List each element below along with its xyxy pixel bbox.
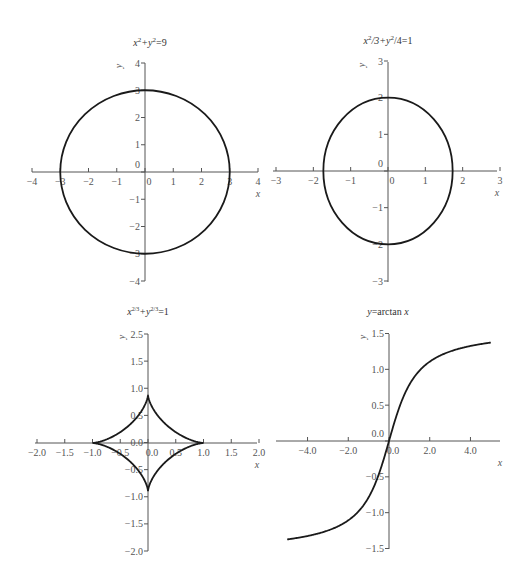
chart-title-astroid: x2/3+y2/3=1 [127,306,169,317]
x-tick-label: 1 [171,176,176,187]
y-tick-label: 1.0 [131,383,144,394]
x-tick-label: −4.0 [298,445,316,456]
y-tick-label: −0.5 [366,471,384,482]
x-tick-label: 0 [147,176,152,187]
title-var-x: x [404,306,408,317]
x-tick-label: 0 [390,175,395,186]
x-tick-label: 0.0 [146,447,159,458]
x-tick-label: 2.0 [423,445,436,456]
y-axis-label: y [357,334,368,340]
y-tick-label: −1.5 [366,543,384,554]
title-rhs: =1 [158,306,169,317]
x-tick-label: −1.5 [56,447,74,458]
y-tick-label: −1.0 [366,507,384,518]
x-axis-label: x [255,188,261,199]
x-tick-label: −2.0 [28,447,46,458]
title-func: =arctan [372,306,405,317]
y-tick-label: 0.5 [372,400,385,411]
y-tick-label: 0 [135,159,140,170]
y-tick-label: 4 [135,58,140,69]
x-tick-label: 2 [199,176,204,187]
y-tick-label: −1 [129,194,140,205]
y-axis-label: y [356,62,367,68]
title-rhs: /4=1 [394,35,412,46]
y-axis-label: y [116,334,127,340]
chart-astroid: −2.0−1.5−1.0−0.50.00.51.01.52.02.51.51.0… [28,329,265,557]
chart-title-circle: x2+y2=9 [133,36,166,48]
x-axis-label: x [497,457,503,468]
y-tick-label: 1 [135,139,140,150]
title-exp: 2/3 [132,306,140,312]
y-tick-label: 3 [378,56,383,67]
x-tick-label: −2 [83,176,94,187]
x-tick-label: 2.0 [253,447,266,458]
y-tick-label: −2 [129,221,140,232]
x-tick-label: −1 [111,176,122,187]
y-tick-label: 1.0 [372,364,385,375]
x-axis-label: x [254,459,260,470]
y-tick-label: 0 [378,158,383,169]
x-tick-label: −0.5 [111,447,129,458]
title-rhs: =9 [156,37,167,48]
y-axis-label: y [113,63,124,69]
x-axis-label: x [494,187,500,198]
chart-arctan: −4.0−2.00.02.04.0−1.5−1.0−0.50.00.51.01.… [276,328,503,554]
x-tick-label: −4 [27,176,38,187]
x-tick-label: 3 [498,175,503,186]
y-tick-label: 2 [135,112,140,123]
x-tick-label: 1.5 [225,447,238,458]
x-tick-label: −2.0 [339,445,357,456]
y-tick-label: 1 [378,129,383,140]
x-tick-label: −1 [345,175,356,186]
y-tick-label: 0.0 [131,437,144,448]
y-tick-label: 2.5 [131,329,144,340]
title-var-y: +y [139,306,150,317]
y-tick-label: 0.0 [372,428,385,439]
title-var-y: /3+y [372,35,391,46]
y-tick-label: −2.0 [125,546,143,557]
x-tick-label: 1.0 [197,447,210,458]
figure-grid: x2+y2=9 x2/3+y2/4=1 x2/3+y2/3=1 y=arctan… [0,0,530,583]
y-tick-label: −4 [129,276,140,287]
title-var-y: +y [141,37,152,48]
chart-circle: −4−3−2−101234−4−3−2−101234xy [27,58,261,287]
x-tick-label: −2 [308,175,319,186]
plots-canvas: −4−3−2−101234−4−3−2−101234xy−3−2−10123−3… [0,0,530,583]
x-tick-label: −3 [271,175,282,186]
x-tick-label: 1 [423,175,428,186]
y-tick-label: −1.0 [125,491,143,502]
x-tick-label: 0.0 [387,445,400,456]
y-tick-label: −1 [372,202,383,213]
y-tick-label: −3 [372,276,383,287]
x-tick-label: −1.0 [83,447,101,458]
chart-ellipse: −3−2−10123−3−2−10123xy [271,56,503,287]
title-exp: 2/3 [151,306,159,312]
x-tick-label: 4.0 [464,445,477,456]
chart-title-ellipse: x2/3+y2/4=1 [364,34,413,46]
chart-title-arctan: y=arctan x [367,306,408,317]
y-tick-label: 1.5 [131,356,144,367]
x-tick-label: 4 [256,176,261,187]
y-tick-label: 1.5 [372,328,385,339]
x-tick-label: 2 [460,175,465,186]
y-tick-label: −1.5 [125,518,143,529]
